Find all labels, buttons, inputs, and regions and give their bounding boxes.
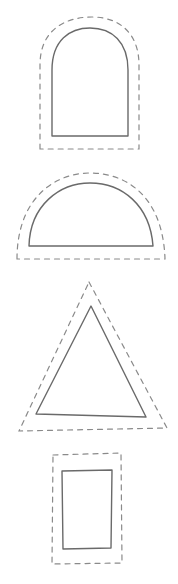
arch-shape-group (40, 17, 139, 149)
semicircle-shape (29, 183, 153, 246)
rectangle-shape-group (52, 453, 122, 564)
rectangle-shape (62, 470, 112, 549)
cut-out-shapes-worksheet (0, 0, 178, 584)
semicircle-shape-group (17, 173, 165, 259)
triangle-shape-group (19, 282, 167, 431)
arch-shape (52, 28, 128, 136)
triangle-shape (36, 306, 146, 417)
